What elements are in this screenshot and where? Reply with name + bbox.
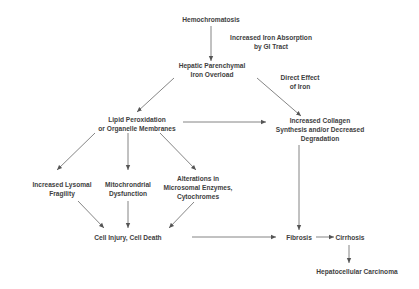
node-text: Microsomal Enzymes, — [164, 183, 233, 192]
node-text: Fibrosis — [286, 233, 312, 242]
edge-hepatic-to-lipid — [137, 78, 174, 112]
node-text: Dysfunction — [105, 189, 151, 198]
node-text: Cell Injury, Cell Death — [94, 233, 161, 242]
edge-label-text: Increased Iron Absorption — [230, 33, 312, 42]
edge-lipid-to-lysosomal — [57, 133, 95, 170]
node-text: Lipid Peroxidation — [98, 115, 175, 124]
node-text: Iron Overload — [179, 70, 246, 79]
node-text: Increased Collagen — [276, 116, 364, 125]
edge-lysosomal-to-cell-injury — [78, 201, 104, 228]
node-hemochromatosis: Hemochromatosis — [182, 15, 240, 24]
node-text: Hepatic Parenchymal — [179, 61, 246, 70]
node-cell-injury: Cell Injury, Cell Death — [94, 233, 161, 242]
node-text: Hepatocellular Carcinoma — [316, 267, 397, 276]
node-text: or Organelle Membranes — [98, 124, 175, 133]
node-mitochondrial: Mitochrondrial Dysfunction — [105, 180, 151, 198]
node-text: Degradation — [276, 134, 364, 143]
edge-label-text: Direct Effect — [281, 73, 320, 82]
node-text: Alterations in — [164, 174, 233, 183]
node-text: Cirrhosis — [336, 233, 365, 242]
node-text: Cytochromes — [164, 192, 233, 201]
hemochromatosis-flow-diagram: Hemochromatosis Increased Iron Absorptio… — [0, 0, 419, 289]
edge-label-iron-absorption: Increased Iron Absorption by GI Tract — [230, 33, 312, 51]
node-lipid-peroxidation: Lipid Peroxidation or Organelle Membrane… — [98, 115, 175, 133]
node-lysosomal: Increased Lysomal Fragility — [32, 180, 91, 198]
node-text: Hemochromatosis — [182, 15, 240, 24]
edge-lipid-to-microsomal — [160, 133, 196, 170]
edge-label-direct-effect: Direct Effect of Iron — [281, 73, 320, 91]
diagram-edges — [0, 0, 419, 289]
edge-label-text: by GI Tract — [230, 42, 312, 51]
node-text: Increased Lysomal — [32, 180, 91, 189]
node-microsomal: Alterations in Microsomal Enzymes, Cytoc… — [164, 174, 233, 201]
node-hepatic-overload: Hepatic Parenchymal Iron Overload — [179, 61, 246, 79]
node-fibrosis: Fibrosis — [286, 233, 312, 242]
node-cirrhosis: Cirrhosis — [336, 233, 365, 242]
node-text: Synthesis and/or Decreased — [276, 125, 364, 134]
node-text: Fragility — [32, 189, 91, 198]
edge-label-text: of Iron — [281, 82, 320, 91]
node-text: Mitochrondrial — [105, 180, 151, 189]
node-carcinoma: Hepatocellular Carcinoma — [316, 267, 397, 276]
node-collagen: Increased Collagen Synthesis and/or Decr… — [276, 116, 364, 143]
edge-microsomal-to-cell-injury — [169, 202, 194, 228]
